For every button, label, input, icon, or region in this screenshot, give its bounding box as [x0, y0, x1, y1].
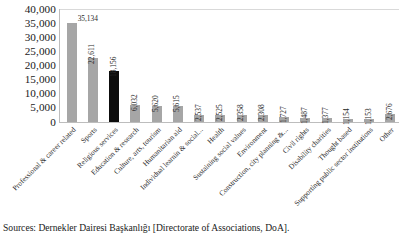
bar-value-label: 2,358 — [237, 105, 245, 122]
bar[interactable] — [67, 23, 77, 122]
bar-value-label: 5,615 — [173, 95, 181, 112]
bar-value-label: 2,525 — [216, 104, 224, 121]
figure-container: 40,00035,00030,00025,00020,00015,00010,0… — [0, 0, 405, 241]
bar-value-label: 35,134 — [78, 15, 98, 23]
bar[interactable] — [88, 58, 98, 122]
y-axis-tick: 40,000 — [0, 4, 56, 15]
y-axis-tick: 5,000 — [0, 102, 56, 113]
y-axis-tick: 25,000 — [0, 46, 56, 57]
y-axis-tick: 0 — [0, 117, 56, 128]
source-note: Sources: Dernekler Dairesi Başkanlığı [D… — [3, 222, 289, 234]
bar-value-label: 5,620 — [152, 95, 160, 112]
plot-area: 35,13422,61118,1566,0325,6205,6152,5372,… — [59, 9, 399, 122]
y-axis-tick-labels: 40,00035,00030,00025,00020,00015,00010,0… — [0, 0, 56, 131]
y-axis-tick: 10,000 — [0, 88, 56, 99]
bar-value-label: 2,537 — [195, 104, 203, 121]
y-axis-tick: 30,000 — [0, 32, 56, 43]
y-axis-tick: 35,000 — [0, 18, 56, 29]
bar-value-label: 6,032 — [131, 94, 139, 111]
y-axis-line — [59, 9, 60, 122]
bar[interactable] — [109, 71, 119, 122]
bar-value-label: 18,156 — [110, 56, 118, 76]
bar-value-label: 22,611 — [88, 44, 96, 64]
bar-value-label: 1,727 — [280, 106, 288, 123]
gridline-top — [59, 9, 399, 10]
y-axis-tick: 15,000 — [0, 74, 56, 85]
x-axis-category-labels: Professional & career relatedSportsRelig… — [59, 122, 405, 222]
y-axis-tick: 20,000 — [0, 60, 56, 71]
bar-value-label: 2,676 — [386, 104, 394, 121]
bar-value-label: 2,308 — [258, 105, 266, 122]
